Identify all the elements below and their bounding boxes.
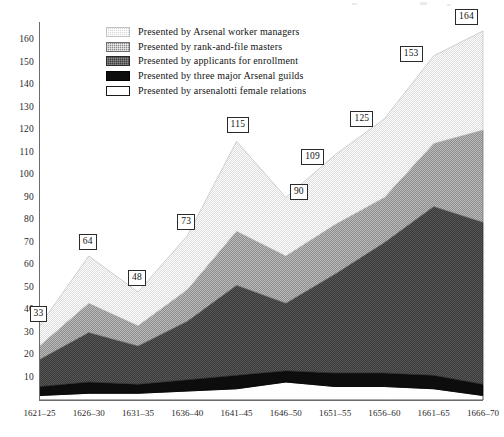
x-tick-label: 1631–35 xyxy=(112,409,164,418)
y-tick-label: 30 xyxy=(0,328,34,338)
y-tick-label: 150 xyxy=(0,58,34,68)
legend-label: Presented by rank-and-file masters xyxy=(138,42,282,52)
y-tick-label: 70 xyxy=(0,238,34,248)
legend-item-relations[interactable]: Presented by arsenalotti female relation… xyxy=(106,83,306,98)
legend-label: Presented by arsenalotti female relation… xyxy=(138,86,306,96)
legend-label: Presented by three major Arsenal guilds xyxy=(138,71,304,81)
y-axis-line xyxy=(39,22,40,401)
y-tick-label: 100 xyxy=(0,170,34,180)
data-label-total: 125 xyxy=(350,111,373,127)
legend-item-masters[interactable]: Presented by rank-and-file masters xyxy=(106,40,306,55)
data-label-total: 73 xyxy=(177,214,195,230)
y-tick-label: 20 xyxy=(0,350,34,360)
data-label-total: 115 xyxy=(227,117,250,133)
x-tick-label: 1656–60 xyxy=(358,409,410,418)
dark-stipple-swatch-icon xyxy=(106,56,130,66)
legend-label: Presented by applicants for enrollment xyxy=(138,56,298,66)
legend-item-applicants[interactable]: Presented by applicants for enrollment xyxy=(106,54,306,69)
y-tick-label: 160 xyxy=(0,35,34,45)
x-tick-label: 1621–25 xyxy=(14,409,66,418)
medium-stipple-swatch-icon xyxy=(106,42,130,52)
x-tick-label: 1626–30 xyxy=(63,409,115,418)
y-tick-label: 140 xyxy=(0,80,34,90)
legend: Presented by Arsenal worker managers Pre… xyxy=(106,25,306,98)
data-label-total: 33 xyxy=(30,306,48,322)
data-label-total: 48 xyxy=(128,270,146,286)
y-tick-label: 50 xyxy=(0,283,34,293)
data-label-total: 153 xyxy=(400,46,423,62)
y-tick-label: 110 xyxy=(0,148,34,158)
x-tick-label: 1646–50 xyxy=(260,409,312,418)
x-tick-label: 1666–70 xyxy=(457,409,504,418)
y-tick-label: 120 xyxy=(0,125,34,135)
legend-label: Presented by Arsenal worker managers xyxy=(138,27,299,37)
data-label-total: 64 xyxy=(79,234,97,250)
x-tick-label: 1641–45 xyxy=(211,409,263,418)
legend-item-managers[interactable]: Presented by Arsenal worker managers xyxy=(106,25,306,40)
white-outline-swatch-icon xyxy=(106,86,130,96)
y-tick-label: 90 xyxy=(0,193,34,203)
black-swatch-icon xyxy=(106,71,130,81)
y-tick-label: 130 xyxy=(0,103,34,113)
data-label-total: 109 xyxy=(301,149,324,165)
data-label-total: 164 xyxy=(455,9,478,25)
x-tick-label: 1636–40 xyxy=(161,409,213,418)
light-stipple-swatch-icon xyxy=(106,27,130,37)
legend-item-guilds[interactable]: Presented by three major Arsenal guilds xyxy=(106,69,306,84)
data-label-total: 90 xyxy=(290,184,308,200)
x-tick-label: 1661–65 xyxy=(408,409,460,418)
x-tick-label: 1651–55 xyxy=(309,409,361,418)
y-tick-label: 10 xyxy=(0,373,34,383)
y-tick-label: 60 xyxy=(0,260,34,270)
x-axis-line xyxy=(39,400,483,401)
y-tick-label: 80 xyxy=(0,215,34,225)
